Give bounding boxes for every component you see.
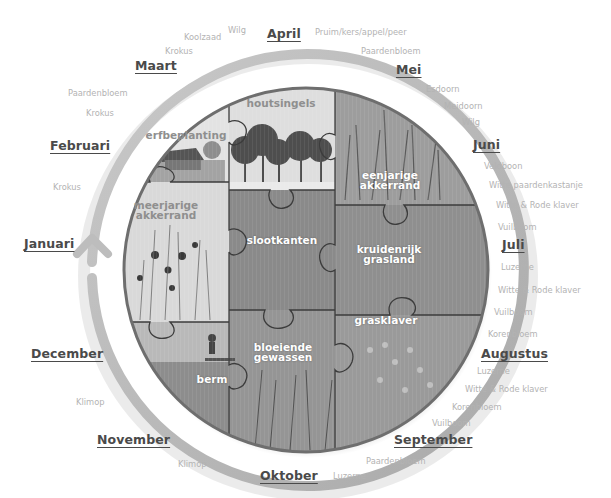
plant-label: Witte & Rode klaver [498, 285, 581, 295]
piece-label-line2: grasland [357, 254, 422, 264]
plant-label: Klimop [76, 397, 104, 407]
seasonal-puzzle-wheel: erfbeplanting houtsingels eenjarige akke… [0, 0, 611, 498]
piece-grasklaver: grasklaver [355, 315, 418, 325]
plant-label: Wilg [228, 25, 246, 35]
month-november: November [97, 432, 170, 447]
plant-label: Veldboon [484, 161, 522, 171]
piece-berm: berm [197, 374, 228, 384]
month-oktober: Oktober [260, 468, 318, 483]
piece-erfbeplanting: erfbeplanting [146, 130, 227, 140]
plant-label: Krokus [165, 46, 193, 56]
month-maart: Maart [135, 58, 177, 73]
plant-label: Luzerne [477, 366, 510, 376]
plant-label: Paardenbloem [361, 46, 421, 56]
plant-label: Koolzaad [184, 32, 221, 42]
plant-label: Luzerne [333, 471, 366, 481]
plant-label: Krokus [53, 182, 81, 192]
plant-label: Witte & Rode klaver [465, 384, 548, 394]
plant-label: Krokus [86, 108, 114, 118]
piece-slootkanten: slootkanten [247, 235, 317, 245]
piece-meerjarige-akkerrand: meerjarige akkerrand [134, 200, 198, 220]
month-februari: Februari [50, 138, 110, 153]
plant-label: Vuilboom [498, 222, 536, 232]
plant-label: Korenbloem [488, 329, 538, 339]
plant-label: Korenbloem [452, 402, 502, 412]
plant-label: Witte & Rode klaver [496, 200, 579, 210]
month-juni: Juni [473, 137, 500, 152]
month-mei: Mei [396, 62, 422, 77]
piece-bloeiende-gewassen: bloeiende gewassen [254, 342, 313, 362]
plant-label: Esdoorn [426, 84, 460, 94]
plant-label: Meidoorn [444, 101, 483, 111]
plant-label: Klimop [178, 459, 206, 469]
piece-kruidenrijk-grasland: kruidenrijk grasland [357, 244, 422, 264]
month-juli: Juli [502, 237, 525, 252]
month-december: December [31, 346, 103, 361]
piece-eenjarige-akkerrand: eenjarige akkerrand [360, 170, 420, 190]
plant-label: Vuilboom [494, 307, 532, 317]
plant-label: Paardenbloem [68, 88, 128, 98]
plant-label: Vuilboom [432, 418, 470, 428]
month-september: September [394, 432, 472, 447]
piece-houtsingels: houtsingels [247, 98, 316, 108]
plant-label: Pruim/kers/appel/peer [315, 27, 407, 37]
plant-label: Witte paardenkastanje [489, 180, 583, 190]
piece-label-line2: gewassen [254, 352, 313, 362]
piece-label-line2: akkerrand [360, 180, 420, 190]
month-januari: Januari [24, 236, 74, 251]
piece-label-line2: akkerrand [134, 210, 198, 220]
month-augustus: Augustus [481, 346, 548, 361]
plant-label: Luzerne [501, 262, 534, 272]
month-april: April [267, 26, 301, 41]
plant-label: Wilg [462, 117, 480, 127]
plant-label: Paardenbloem [366, 456, 426, 466]
